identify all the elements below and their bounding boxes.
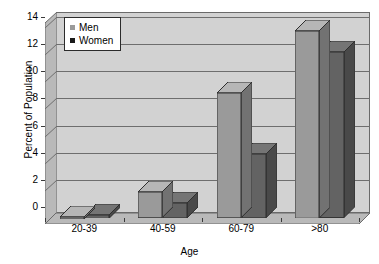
x-tick-mark (45, 218, 46, 222)
x-tick-mark (281, 218, 282, 222)
gridline-depth-edge (45, 17, 57, 29)
x-tick-mark (124, 218, 125, 222)
bar-6079-men (217, 82, 252, 218)
x-tick-label: 40-59 (128, 223, 198, 234)
y-tick-label: 6 (16, 121, 38, 131)
x-tick-mark (202, 218, 203, 222)
bar-shape (138, 181, 173, 218)
y-tick-label: 14 (16, 12, 38, 22)
gridline-depth-edge (45, 98, 57, 110)
x-tick-label: 20-39 (49, 223, 119, 234)
legend-label-men: Men (79, 21, 98, 34)
legend-item-women: Women (70, 34, 113, 47)
bar-80-men (295, 20, 330, 218)
y-axis-title: Percent of Population (23, 30, 34, 190)
y-tick-label: 4 (16, 148, 38, 158)
x-axis-title: Age (0, 246, 379, 257)
y-tick-label: 12 (16, 39, 38, 49)
gridline-depth-edge (45, 180, 57, 192)
y-tick-label: 2 (16, 175, 38, 185)
y-tick-label: 8 (16, 93, 38, 103)
bar-2039-men (60, 205, 95, 218)
bar-shape (217, 82, 252, 218)
y-tick-label: 10 (16, 66, 38, 76)
gridline-depth-edge (45, 71, 57, 83)
legend-swatch-men (70, 25, 75, 30)
gridline-depth-edge (45, 44, 57, 56)
legend-swatch-women (70, 38, 75, 43)
x-tick-mark (359, 218, 360, 222)
bar-chart: Percent of Population 02468101214 20-394… (0, 0, 379, 264)
bar-shape (295, 20, 330, 218)
bar-4059-men (138, 181, 173, 218)
x-tick-label: 60-79 (206, 223, 276, 234)
chart-legend: Men Women (64, 17, 121, 51)
legend-item-men: Men (70, 21, 113, 34)
gridline-depth-edge (45, 153, 57, 165)
bar-shape (60, 206, 95, 219)
y-tick-label: 0 (16, 202, 38, 212)
gridline-depth-edge (45, 126, 57, 138)
legend-label-women: Women (79, 34, 113, 47)
x-tick-label: >80 (285, 223, 355, 234)
